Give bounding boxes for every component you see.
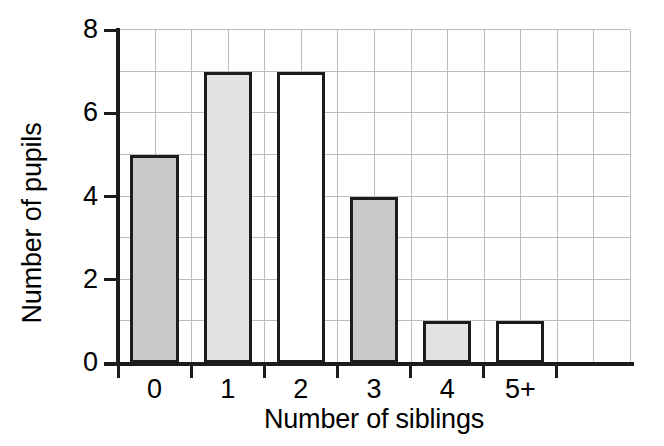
y-tick-label: 4 <box>58 183 98 210</box>
x-tick-label: 4 <box>407 376 487 403</box>
y-tick-label: 8 <box>58 16 98 43</box>
y-tick-label: 2 <box>58 266 98 293</box>
y-tick-mark <box>104 195 120 198</box>
bar-3 <box>350 197 398 364</box>
x-axis-title: Number of siblings <box>118 404 630 435</box>
gridline-vertical <box>593 30 594 363</box>
gridline-vertical <box>337 30 338 363</box>
gridline-vertical <box>520 30 521 363</box>
x-tick-label: 2 <box>261 376 341 403</box>
y-tick-mark <box>104 278 120 281</box>
bar-4 <box>423 321 471 363</box>
bar-1 <box>204 72 252 363</box>
x-tick-label: 0 <box>115 376 195 403</box>
x-tick-label: 1 <box>188 376 268 403</box>
gridline-vertical <box>447 30 448 363</box>
y-tick-label: 6 <box>58 99 98 126</box>
gridline-vertical <box>557 30 558 363</box>
plot-area <box>118 30 630 363</box>
gridline-vertical <box>411 30 412 363</box>
x-tick-label: 3 <box>334 376 414 403</box>
gridline-vertical <box>630 30 631 363</box>
y-tick-mark <box>104 112 120 115</box>
bar-0 <box>130 155 178 363</box>
bar-2 <box>277 72 325 363</box>
x-tick-label: 5+ <box>480 376 560 403</box>
y-tick-label: 0 <box>58 349 98 376</box>
gridline-vertical <box>484 30 485 363</box>
y-axis-title: Number of pupils <box>10 0 54 446</box>
gridline-vertical <box>191 30 192 363</box>
y-tick-mark <box>104 29 120 32</box>
bar-5plus <box>496 321 544 363</box>
bar-chart: Number of pupils 02468 012345+ Number of… <box>0 0 664 446</box>
gridline-vertical <box>264 30 265 363</box>
